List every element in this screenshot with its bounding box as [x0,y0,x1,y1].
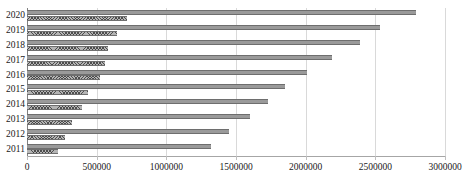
x-tick-mark [306,156,307,160]
chart-row [27,82,445,97]
bar-series-1-2019 [27,25,380,30]
x-tick-mark [236,156,237,160]
bar-series-2-2013 [27,120,72,125]
gridline-3000000 [445,8,446,156]
bar-series-1-2016 [27,70,307,75]
chart-row [27,141,445,156]
chart-row [27,8,445,23]
y-axis-label-2020: 2020 [0,10,25,20]
bar-series-2-2017 [27,61,105,66]
y-axis-label-2013: 2013 [0,114,25,124]
y-axis-label-2014: 2014 [0,99,25,109]
bar-series-2-2020 [27,16,127,21]
x-tick-mark [166,156,167,160]
x-tick-mark [375,156,376,160]
clipped-title-fragment [0,0,476,6]
bar-series-2-2011 [27,149,58,154]
chart-row [27,38,445,53]
bar-series-1-2020 [27,10,416,15]
bar-series-2-2019 [27,31,117,36]
y-axis-category-labels: 2020201920182017201620152014201320122011 [0,8,25,156]
bar-series-1-2012 [27,129,229,134]
y-axis-label-2016: 2016 [0,70,25,80]
x-axis-tick-label: 1500000 [219,162,252,173]
chart-row [27,126,445,141]
x-axis-tick-label: 0 [25,162,30,173]
chart-row [27,52,445,67]
plot-area [27,8,445,156]
chart-row [27,23,445,38]
y-axis-label-2017: 2017 [0,55,25,65]
bar-series-1-2018 [27,40,360,45]
x-tick-mark [27,156,28,160]
bar-series-2-2015 [27,90,88,95]
bar-series-1-2017 [27,55,332,60]
x-axis-tick-label: 2000000 [289,162,322,173]
y-axis-label-2018: 2018 [0,40,25,50]
x-axis-tick-label: 2500000 [359,162,392,173]
x-axis-tick-label: 500000 [82,162,111,173]
x-tick-mark [97,156,98,160]
x-axis-tick-label: 3000000 [428,162,461,173]
x-tick-mark [445,156,446,160]
bar-series-2-2012 [27,135,65,140]
chart-row [27,97,445,112]
x-axis-tick-labels: 0500000100000015000002000000250000030000… [0,162,476,178]
bar-series-1-2014 [27,99,268,104]
chart-row [27,112,445,127]
bar-series-2-2018 [27,46,108,51]
x-axis-tick-label: 1000000 [150,162,183,173]
y-axis-label-2012: 2012 [0,129,25,139]
bar-series-1-2011 [27,144,211,149]
y-axis-label-2011: 2011 [0,144,25,154]
y-axis-label-2019: 2019 [0,25,25,35]
bar-chart: 2020201920182017201620152014201320122011… [0,0,476,181]
chart-row [27,67,445,82]
bar-series-1-2013 [27,114,250,119]
bar-series-1-2015 [27,84,285,89]
bar-series-2-2014 [27,105,82,110]
bar-series-2-2016 [27,75,100,80]
y-axis-label-2015: 2015 [0,84,25,94]
